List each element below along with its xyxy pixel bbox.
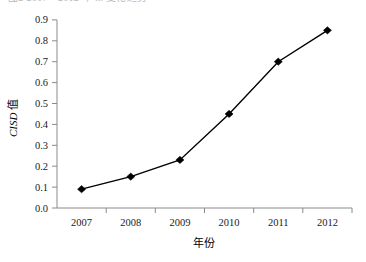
svg-text:CISD 值: CISD 值 bbox=[7, 99, 19, 137]
y-tick-label: 0.4 bbox=[35, 119, 49, 130]
x-tick-label: 2007 bbox=[71, 217, 92, 228]
y-tick-label: 0.7 bbox=[35, 56, 48, 67]
data-series-cisd bbox=[78, 27, 332, 193]
y-axis-label-italic: CISD bbox=[7, 113, 19, 138]
cropped-caption-text: 图2 2007—2012 年 ... 变化趋势 bbox=[8, 0, 366, 3]
y-tick-label: 0.2 bbox=[35, 161, 48, 172]
series-line bbox=[82, 30, 328, 189]
data-point-marker bbox=[78, 186, 86, 193]
y-tick-label: 0.1 bbox=[35, 182, 48, 193]
y-axis-label: CISD 值 bbox=[7, 99, 19, 137]
y-tick-label: 0.0 bbox=[35, 203, 48, 214]
cropped-caption-artifact: 图2 2007—2012 年 ... 变化趋势 bbox=[0, 0, 366, 7]
y-tick-label: 0.9 bbox=[35, 14, 48, 25]
y-tick-label: 0.6 bbox=[35, 77, 48, 88]
y-tick-label: 0.5 bbox=[35, 98, 48, 109]
data-point-marker bbox=[127, 173, 135, 180]
y-tick-label: 0.3 bbox=[35, 140, 48, 151]
x-tick-label: 2010 bbox=[219, 217, 240, 228]
y-axis-ticks: 0.0 0.1 0.2 0.3 0.4 0.5 0.6 0.7 0.8 0.9 bbox=[35, 14, 57, 213]
x-tick-label: 2011 bbox=[268, 217, 289, 228]
x-tick-label: 2009 bbox=[169, 217, 190, 228]
y-axis-label-suffix: 值 bbox=[7, 99, 19, 113]
x-tick-label: 2008 bbox=[120, 217, 141, 228]
x-axis-ticks bbox=[106, 208, 352, 213]
line-chart-svg: CISD 值 0.0 0.1 0.2 0.3 0.4 0.5 0.6 0.7 bbox=[0, 0, 366, 262]
x-axis-labels: 2007 2008 2009 2010 2011 2012 bbox=[71, 217, 338, 228]
y-tick-label: 0.8 bbox=[35, 35, 48, 46]
x-tick-label: 2012 bbox=[317, 217, 338, 228]
chart-container: 图2 2007—2012 年 ... 变化趋势 CISD 值 0.0 0.1 0… bbox=[0, 0, 366, 262]
x-axis-title: 年份 bbox=[193, 236, 215, 249]
